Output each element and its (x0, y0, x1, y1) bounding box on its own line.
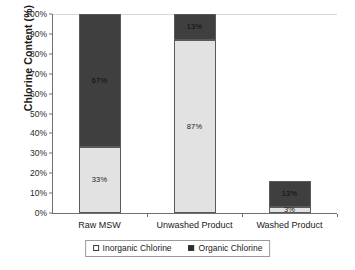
segment-value-label: 13% (282, 190, 297, 198)
y-axis-tick-mark (49, 73, 52, 74)
x-axis-category-label: Washed Product (242, 220, 337, 230)
chlorine-content-stacked-bar-chart: Chlorine Content (%) 100%90%80%70%60%50%… (0, 0, 355, 270)
y-axis-tick-mark (49, 213, 52, 214)
y-axis-tick-mark (49, 153, 52, 154)
legend-label-inorganic-chlorine: Inorganic Chlorine (103, 243, 172, 253)
plot-area: 100%90%80%70%60%50%40%30%20%10%0%33%67%R… (52, 14, 337, 214)
x-axis-tick-mark (147, 214, 148, 217)
segment-inorganic-chlorine[interactable]: 87% (174, 40, 216, 213)
hollow-square-icon (93, 245, 99, 251)
segment-inorganic-chlorine[interactable]: 3% (269, 207, 311, 213)
legend-item-inorganic-chlorine: Inorganic Chlorine (93, 243, 172, 253)
y-axis-tick-mark (49, 33, 52, 34)
bar-unwashed-product[interactable]: 87%13% (174, 14, 216, 213)
y-axis-line (52, 14, 53, 214)
y-axis-tick-mark (49, 173, 52, 174)
segment-value-label: 87% (187, 123, 202, 131)
y-axis-tick-mark (49, 93, 52, 94)
y-axis-tick-mark (49, 113, 52, 114)
segment-organic-chlorine[interactable]: 13% (269, 181, 311, 207)
legend-item-organic-chlorine: Organic Chlorine (189, 243, 263, 253)
x-axis-category-label: Raw MSW (52, 220, 147, 230)
segment-value-label: 3% (284, 206, 295, 214)
x-axis-tick-mark (242, 214, 243, 217)
y-axis-tick-mark (49, 53, 52, 54)
y-axis-tick-mark (49, 193, 52, 194)
bar-washed-product[interactable]: 3%13% (269, 181, 311, 213)
y-axis-tick-mark (49, 14, 52, 15)
segment-value-label: 67% (92, 77, 107, 85)
y-axis-tick-label: 100% (25, 9, 52, 19)
x-axis-category-label: Unwashed Product (147, 220, 242, 230)
bar-raw-msw[interactable]: 33%67% (79, 14, 121, 213)
segment-value-label: 33% (92, 176, 107, 184)
filled-square-icon (189, 245, 195, 251)
legend-label-organic-chlorine: Organic Chlorine (199, 243, 263, 253)
segment-inorganic-chlorine[interactable]: 33% (79, 147, 121, 213)
chart-legend: Inorganic Chlorine Organic Chlorine (85, 240, 271, 257)
y-axis-tick-mark (49, 133, 52, 134)
x-axis-tick-mark (337, 214, 338, 217)
segment-organic-chlorine[interactable]: 13% (174, 14, 216, 40)
segment-organic-chlorine[interactable]: 67% (79, 14, 121, 147)
segment-value-label: 13% (187, 23, 202, 31)
